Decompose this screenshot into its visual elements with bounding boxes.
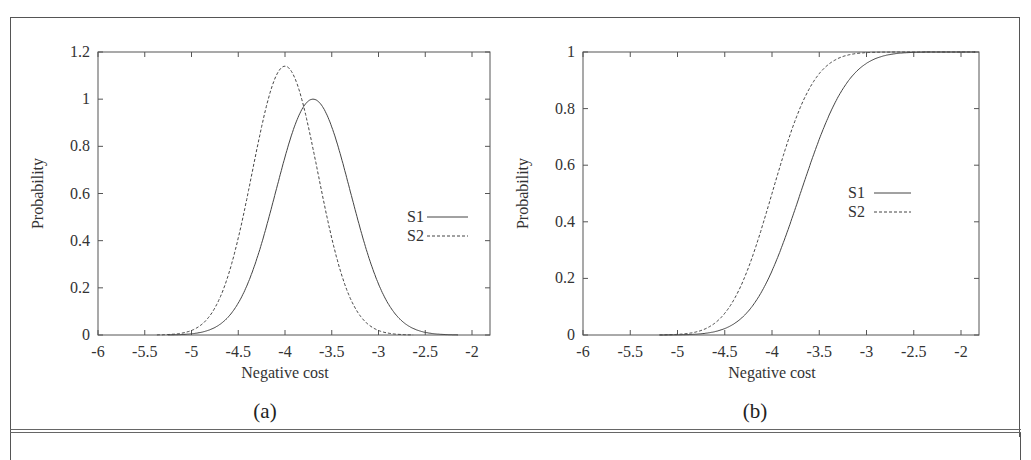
y-tick-label: 0.8 xyxy=(555,100,575,117)
x-axis-title: Negative cost xyxy=(241,364,329,382)
y-tick-label: 1 xyxy=(567,43,575,60)
x-tick-label: -6 xyxy=(91,343,104,360)
x-tick-label: -3 xyxy=(860,343,873,360)
y-tick-label: 0.6 xyxy=(70,185,90,202)
legend-label-s1: S1 xyxy=(407,208,424,225)
x-tick-label: -3.5 xyxy=(807,343,832,360)
y-tick-label: 1 xyxy=(82,90,90,107)
x-tick-label: -2 xyxy=(465,343,478,360)
chart-panel-a: -6-5.5-5-4.5-4-3.5-3-2.5-200.20.40.60.81… xyxy=(29,43,490,423)
x-tick-label: -5.5 xyxy=(132,343,157,360)
x-tick-label: -6 xyxy=(576,343,589,360)
x-tick-label: -4 xyxy=(765,343,778,360)
y-tick-label: 0.4 xyxy=(555,213,575,230)
y-axis-title: Probability xyxy=(514,158,532,229)
series-line-s2 xyxy=(157,66,413,335)
x-tick-label: -3.5 xyxy=(319,343,344,360)
x-tick-label: -4.5 xyxy=(226,343,251,360)
legend-label-s2: S2 xyxy=(848,203,865,220)
chart-panel-b: -6-5.5-5-4.5-4-3.5-3-2.5-200.20.40.60.81… xyxy=(514,43,979,423)
series-line-s1 xyxy=(660,52,976,335)
y-tick-label: 0.2 xyxy=(555,269,575,286)
panel-caption: (a) xyxy=(253,399,276,423)
y-tick-label: 0 xyxy=(567,326,575,343)
x-tick-label: -4.5 xyxy=(712,343,737,360)
panel-caption: (b) xyxy=(743,399,768,423)
plot-area-frame xyxy=(583,52,979,335)
x-axis-title: Negative cost xyxy=(728,364,816,382)
y-tick-label: 1.2 xyxy=(70,43,90,60)
x-tick-label: -2.5 xyxy=(901,343,926,360)
y-tick-label: 0.6 xyxy=(555,156,575,173)
y-tick-label: 0.8 xyxy=(70,137,90,154)
x-tick-label: -2.5 xyxy=(413,343,438,360)
x-tick-label: -4 xyxy=(278,343,291,360)
x-tick-label: -5 xyxy=(185,343,198,360)
y-tick-label: 0 xyxy=(82,326,90,343)
y-axis-title: Probability xyxy=(29,158,47,229)
series-line-s2 xyxy=(660,52,976,335)
legend-label-s1: S1 xyxy=(848,184,865,201)
figure-svg: -6-5.5-5-4.5-4-3.5-3-2.5-200.20.40.60.81… xyxy=(0,0,1031,460)
y-tick-label: 0.2 xyxy=(70,279,90,296)
x-tick-label: -5 xyxy=(671,343,684,360)
y-tick-label: 0.4 xyxy=(70,232,90,249)
x-tick-label: -5.5 xyxy=(618,343,643,360)
plot-area-frame xyxy=(98,52,490,335)
legend-label-s2: S2 xyxy=(407,227,424,244)
x-tick-label: -2 xyxy=(954,343,967,360)
x-tick-label: -3 xyxy=(372,343,385,360)
